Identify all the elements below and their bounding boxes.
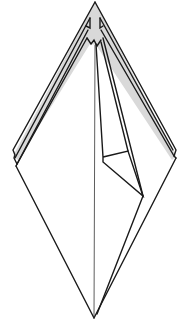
origami-diagram — [0, 0, 186, 331]
origami-diagram-svg — [0, 0, 186, 331]
